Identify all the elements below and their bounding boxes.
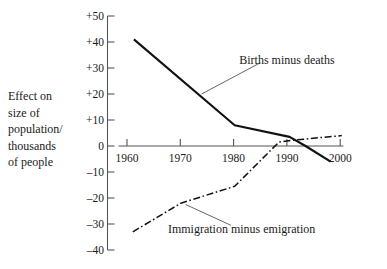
annotation-label: Immigration minus emigration (168, 222, 315, 236)
x-axis-tick-label: 1970 (169, 152, 192, 164)
x-axis-tick-label: 1960 (116, 152, 139, 164)
y-axis-tick-label: –10 (86, 166, 105, 178)
y-axis-tick-label: –40 (86, 244, 105, 256)
x-axis-tick-label: 2000 (329, 152, 352, 164)
y-axis-tick-label: +30 (86, 62, 104, 74)
population-change-line-chart: Effect onsize ofpopulation/thousandsof p… (0, 0, 387, 269)
y-axis-tick-label: +20 (86, 88, 104, 100)
y-axis-title-line: Effect on (8, 89, 52, 103)
chart-container: Effect onsize ofpopulation/thousandsof p… (0, 0, 387, 269)
x-axis-tick-label: 1990 (275, 152, 298, 164)
y-axis-title-line: thousands (8, 139, 56, 153)
y-axis-title-line: of people (8, 155, 53, 169)
annotation-label: Births minus deaths (239, 53, 335, 67)
y-axis-tick-label: –20 (86, 192, 105, 204)
y-axis-title-line: population/ (8, 122, 63, 136)
y-axis-tick-label: +50 (86, 10, 104, 22)
y-axis-tick-label: –30 (86, 218, 105, 230)
y-axis-tick-label: +40 (86, 36, 104, 48)
y-axis-title-line: size of (8, 106, 40, 120)
y-axis-tick-label: 0 (98, 140, 104, 152)
x-axis-tick-label: 1980 (222, 152, 245, 164)
y-axis-tick-label: +10 (86, 114, 104, 126)
